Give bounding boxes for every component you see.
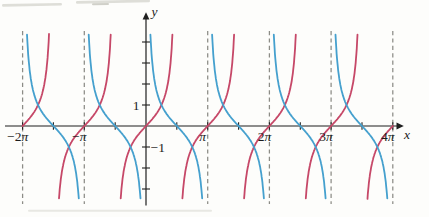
x-tick-label: 3π — [319, 129, 334, 144]
paper-background — [0, 0, 429, 217]
x-tick-label: −2π — [7, 129, 29, 144]
y-tick-label: −1 — [151, 140, 165, 155]
trig-functions-plot: −2π−ππ2π3π4π1−1xy — [0, 0, 429, 217]
y-tick-label: 1 — [133, 98, 140, 113]
page-artifact-bottom — [28, 210, 212, 212]
x-tick-label: 4π — [381, 129, 396, 144]
y-axis-label: y — [150, 4, 158, 19]
x-axis-label: x — [403, 127, 410, 142]
figure-canvas: −2π−ππ2π3π4π1−1xy — [0, 0, 429, 217]
x-tick-label: 2π — [258, 129, 273, 144]
x-tick-label: −π — [72, 129, 88, 144]
